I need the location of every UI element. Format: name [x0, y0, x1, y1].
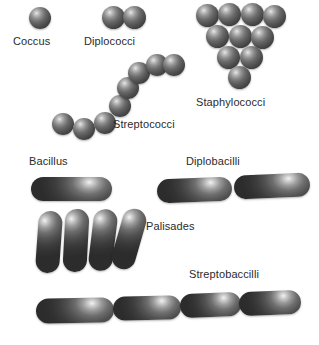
diplococci-label: Diplococci — [84, 35, 135, 47]
bacillus-label: Bacillus — [29, 155, 68, 167]
staphylococci-cell-2 — [218, 3, 241, 26]
staphylococci-cell-9 — [240, 46, 263, 69]
coccus-label: Coccus — [13, 35, 50, 47]
staphylococci-label: Staphylococci — [196, 96, 265, 108]
staphylococci-cell-6 — [229, 25, 252, 48]
palisades-cell-1 — [35, 210, 63, 274]
streptobacilli-cell-4 — [239, 290, 302, 316]
staphylococci-cell-1 — [196, 4, 219, 27]
diplobacilli-label: Diplobacilli — [186, 155, 240, 167]
diplobacilli-cell-1 — [157, 176, 233, 203]
diplococci-cell-1 — [102, 6, 125, 29]
streptococci-cell-1 — [52, 113, 74, 135]
streptobacilli-cell-2 — [113, 295, 182, 321]
streptobacilli-cell-3 — [180, 292, 242, 318]
bacteria-morphology-diagram: Coccus Diplococci Staphylococci Strept — [0, 0, 319, 345]
streptobacilli-cell-1 — [36, 297, 114, 323]
coccus-cell — [29, 7, 51, 29]
bacillus-cell — [31, 177, 112, 201]
streptobacilli-label: Streptobaccilli — [189, 268, 259, 280]
diplococci-cell-2 — [123, 6, 146, 29]
streptococci-cell-8 — [163, 54, 185, 76]
staphylococci-cell-5 — [206, 25, 229, 48]
staphylococci-cell-3 — [241, 3, 264, 26]
staphylococci-cell-10 — [228, 66, 251, 89]
palisades-label: Palisades — [146, 220, 195, 232]
streptococci-cell-2 — [73, 118, 95, 140]
diplobacilli-cell-2 — [234, 172, 311, 199]
palisades-cell-2 — [62, 208, 89, 272]
streptococci-label: Streptococci — [113, 118, 175, 130]
staphylococci-cell-4 — [263, 5, 286, 28]
